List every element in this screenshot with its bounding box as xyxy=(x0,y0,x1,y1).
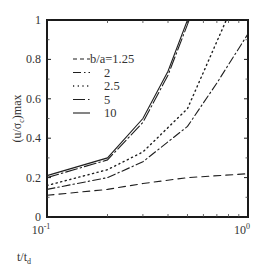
series-lines xyxy=(47,20,248,195)
y-tick-label: 1 xyxy=(35,13,41,27)
series-line-2 xyxy=(47,34,248,190)
legend-label: b/a=1.25 xyxy=(90,52,134,66)
legend-label: 2 xyxy=(104,66,110,80)
legend-label: 10 xyxy=(104,106,117,120)
chart: 00.20.40.60.8110-1100 b/a=1.2522.5510 (u… xyxy=(0,0,268,273)
legend-label: 2.5 xyxy=(104,79,120,93)
y-tick-label: 0.6 xyxy=(26,92,41,106)
series-line-10 xyxy=(47,20,188,176)
plot-frame xyxy=(47,20,248,217)
series-line-b-a-1-25 xyxy=(47,174,248,196)
y-tick-label: 0.8 xyxy=(26,52,41,66)
series-line-2-5 xyxy=(47,20,226,186)
legend-label: 5 xyxy=(104,93,110,107)
legend: b/a=1.2522.5510 xyxy=(73,52,134,120)
axis-ticks: 00.20.40.60.8110-1100 xyxy=(26,13,250,237)
x-tick-label: 100 xyxy=(234,222,250,237)
x-tick-label: 10-1 xyxy=(32,222,51,237)
y-tick-label: 0 xyxy=(35,210,41,224)
y-tick-label: 0.4 xyxy=(26,131,41,145)
y-tick-label: 0.2 xyxy=(26,171,41,185)
y-axis-title: (u/σc)max xyxy=(10,94,26,142)
plot-border xyxy=(47,20,248,217)
x-axis-title: t/td xyxy=(17,250,31,266)
series-line-5 xyxy=(47,20,189,178)
